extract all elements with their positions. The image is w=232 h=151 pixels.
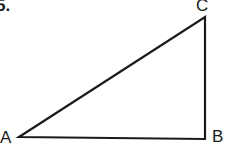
vertex-label-b: B (212, 128, 223, 145)
triangle-diagram (0, 0, 232, 151)
vertex-label-c: C (196, 0, 208, 14)
vertex-label-a: A (0, 129, 11, 146)
triangle-abc (19, 17, 205, 139)
